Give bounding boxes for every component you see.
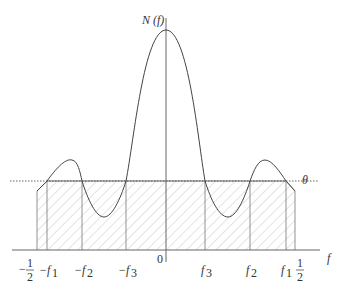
tick-f2: f 2 xyxy=(246,263,257,280)
svg-text:1: 1 xyxy=(286,266,292,280)
origin-label: 0 xyxy=(157,252,163,266)
svg-text:3: 3 xyxy=(206,266,212,280)
svg-text:2: 2 xyxy=(251,266,257,280)
svg-text:1: 1 xyxy=(297,256,303,270)
tick-f3: f 3 xyxy=(201,263,212,280)
tick-neg-half: − 1 2 xyxy=(19,256,34,284)
svg-text:−f: −f xyxy=(118,263,131,277)
svg-text:−: − xyxy=(19,262,26,276)
svg-text:1: 1 xyxy=(27,256,33,270)
tick-f1: f 1 xyxy=(281,263,292,280)
svg-text:−f: −f xyxy=(74,263,87,277)
svg-text:3: 3 xyxy=(131,266,137,280)
threshold-label: θ xyxy=(302,173,308,187)
svg-text:−f: −f xyxy=(39,263,52,277)
tick-half: 1 2 xyxy=(296,256,304,284)
svg-text:2: 2 xyxy=(27,270,33,284)
x-axis-label: f xyxy=(327,251,332,265)
tick-neg-f3: −f 3 xyxy=(118,263,137,280)
frequency-threshold-diagram: N (f) f θ 0 − 1 2 −f 1 −f 2 −f 3 f 3 f 2… xyxy=(0,0,358,295)
tick-neg-f2: −f 2 xyxy=(74,263,93,280)
y-axis-label: N (f) xyxy=(141,13,164,27)
svg-text:2: 2 xyxy=(87,266,93,280)
svg-text:1: 1 xyxy=(52,266,58,280)
svg-text:2: 2 xyxy=(297,270,303,284)
tick-neg-f1: −f 1 xyxy=(39,263,58,280)
